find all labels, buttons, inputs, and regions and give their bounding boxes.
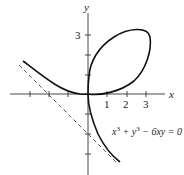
y-tick-label-3: 3 bbox=[75, 29, 81, 41]
equation-label: x3 + y3 − 6xy = 0 bbox=[111, 125, 182, 137]
folium-curve bbox=[23, 29, 150, 162]
y-axis-label: y bbox=[83, 1, 89, 13]
folium-diagram: y x 3 1 2 3 x3 + y3 − 6xy = 0 bbox=[0, 0, 184, 175]
x-tick-label-1: 1 bbox=[104, 98, 110, 110]
asymptote-line bbox=[19, 65, 118, 164]
x-axis-label: x bbox=[168, 88, 174, 100]
x-tick-label-3: 3 bbox=[143, 98, 149, 110]
x-tick-label-2: 2 bbox=[123, 98, 129, 110]
